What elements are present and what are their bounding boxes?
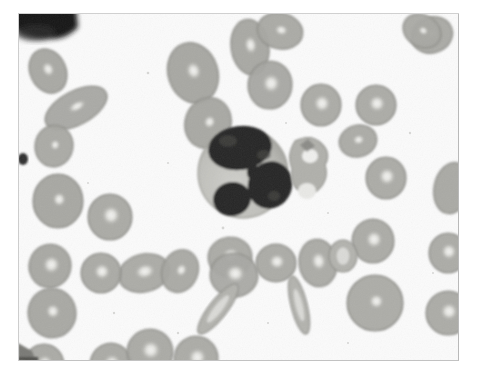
screenshot-root — [0, 0, 479, 384]
field-edge-left — [18, 13, 19, 361]
field-edge-top — [18, 13, 459, 14]
micrograph-frame — [18, 13, 459, 361]
blood-smear-image — [18, 13, 459, 361]
